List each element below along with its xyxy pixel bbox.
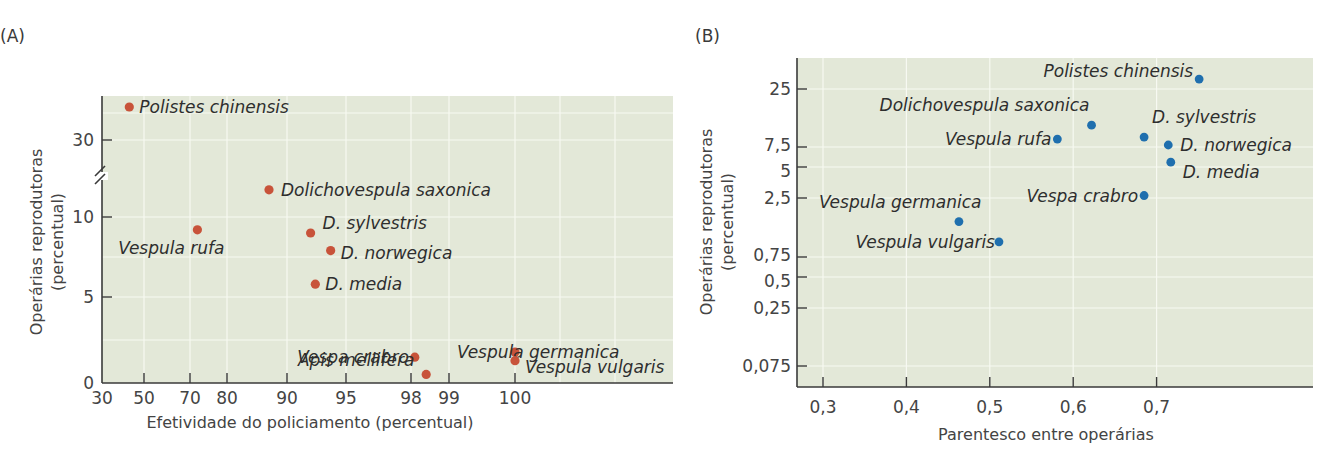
x-tick-label: 80 [216, 388, 238, 408]
data-point [264, 185, 273, 194]
data-point [1053, 135, 1062, 144]
point-label: Polistes chinensis [139, 97, 289, 117]
y-tick-label: 0 [83, 373, 94, 393]
panel-label-b: (B) [695, 26, 720, 46]
y-tick-label: 5 [780, 161, 791, 181]
x-tick-label: 0,7 [1143, 397, 1170, 417]
point-label: Vespa crabro [1027, 186, 1139, 206]
x-tick-label: 98 [400, 388, 422, 408]
x-axis-title-a: Efetividade do policiamento (percentual) [146, 413, 473, 432]
data-point [326, 246, 335, 255]
data-point [193, 225, 202, 234]
y-tick-label: 0,25 [753, 298, 791, 318]
point-label: D. norwegica [341, 243, 453, 263]
figure: (A) 3050708090959899100051030 Polistes c… [0, 0, 1335, 461]
x-tick-label: 100 [499, 388, 531, 408]
point-label: Polistes chinensis [1043, 61, 1193, 81]
chart-a: (A) 3050708090959899100051030 Polistes c… [0, 26, 673, 432]
data-point [510, 356, 519, 365]
point-label: D. sylvestris [1152, 107, 1256, 127]
point-label: Dolichovespula saxonica [281, 180, 491, 200]
data-point [1166, 158, 1175, 167]
x-tick-label: 0,5 [976, 397, 1003, 417]
x-tick-label: 50 [133, 388, 155, 408]
data-point [995, 237, 1004, 246]
x-tick-label: 95 [335, 388, 357, 408]
point-label: Apis mellifera [297, 350, 414, 370]
y-tick-label: 5 [83, 287, 94, 307]
y-tick-label: 25 [769, 79, 791, 99]
x-tick-label: 0,6 [1060, 397, 1087, 417]
x-tick-label: 0,4 [893, 397, 920, 417]
point-label: Vespula vulgaris [525, 357, 665, 377]
data-point [306, 228, 315, 237]
x-tick-label: 99 [438, 388, 460, 408]
point-label: D. norwegica [1180, 135, 1292, 155]
point-label: Vespula rufa [118, 238, 224, 258]
x-tick-label: 0,3 [809, 397, 836, 417]
point-label: D. sylvestris [323, 213, 427, 233]
x-tick-label: 90 [276, 388, 298, 408]
y-tick-label: 2,5 [764, 188, 791, 208]
y-tick-label: 7,5 [764, 135, 791, 155]
data-point [125, 102, 134, 111]
data-point [1195, 75, 1204, 84]
point-label: Vespula rufa [945, 129, 1051, 149]
y-tick-label: 0,75 [753, 245, 791, 265]
y-tick-label: 30 [72, 130, 94, 150]
point-label: Vespula germanica [819, 192, 982, 212]
point-label: D. media [1183, 162, 1260, 182]
data-point [1140, 133, 1149, 142]
data-point [311, 280, 320, 289]
y-tick-label: 0,075 [742, 356, 791, 376]
data-point [1164, 141, 1173, 150]
x-axis-title-b: Parentesco entre operárias [938, 425, 1154, 444]
y-axis-title-a-line1: Operárias reprodutoras [27, 149, 46, 336]
y-tick-label: 0,5 [764, 271, 791, 291]
y-axis-title-b-line1: Operárias reprodutoras [697, 129, 716, 316]
x-tick-label: 30 [91, 388, 113, 408]
panel-label-a: (A) [0, 26, 25, 46]
chart-b: (B) 0,30,40,50,60,70,0750,250,50,752,557… [695, 26, 1313, 444]
x-tick-label: 70 [179, 388, 201, 408]
y-axis-title-b-line2: (percentual) [718, 173, 737, 271]
data-point [422, 370, 431, 379]
data-point [1140, 191, 1149, 200]
point-label: Dolichovespula saxonica [880, 95, 1090, 115]
data-point [955, 217, 964, 226]
y-axis-title-a-line2: (percentual) [48, 193, 67, 291]
point-label: Vespula vulgaris [856, 232, 996, 252]
y-tick-label: 10 [72, 207, 94, 227]
data-point [1087, 121, 1096, 130]
point-label: D. media [325, 274, 402, 294]
